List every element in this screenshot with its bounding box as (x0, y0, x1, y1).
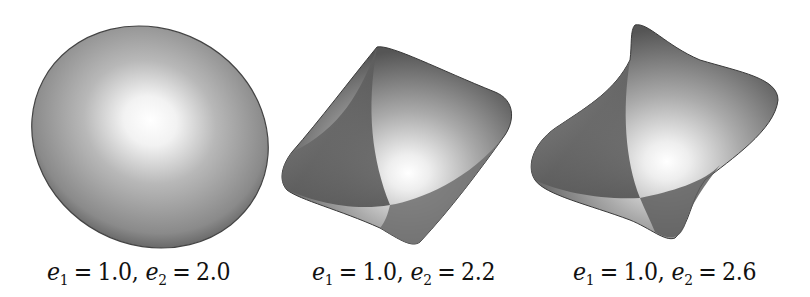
shapes-canvas (0, 0, 810, 250)
equals-sign: = (693, 258, 722, 286)
comma: , (132, 258, 139, 286)
e1-symbol: e (312, 258, 325, 286)
equals-sign: = (68, 258, 97, 286)
e1-value: 1.0 (363, 258, 397, 286)
e2-value: 2.2 (461, 258, 495, 286)
e1-subscript: 1 (60, 271, 69, 289)
caption-panel-3: e1=1.0, e2=2.6 (573, 258, 756, 288)
figure: e1=1.0, e2=2.0 e1=1.0, e2=2.2 e1=1.0, e2… (0, 0, 810, 297)
equals-sign: = (594, 258, 623, 286)
e2-subscript: 2 (423, 271, 432, 289)
caption-panel-1: e1=1.0, e2=2.0 (47, 258, 230, 288)
equals-sign: = (432, 258, 461, 286)
comma: , (397, 258, 404, 286)
superquadric-3-left-flap (531, 60, 640, 198)
equals-sign: = (333, 258, 362, 286)
e1-subscript: 1 (325, 271, 334, 289)
e2-symbol: e (671, 258, 684, 286)
equals-sign: = (167, 258, 196, 286)
e1-value: 1.0 (98, 258, 132, 286)
panel-2-superquadric (282, 47, 512, 244)
e2-subscript: 2 (684, 271, 693, 289)
e2-symbol: e (145, 258, 158, 286)
panel-3-superquadric (531, 25, 778, 239)
e1-symbol: e (47, 258, 60, 286)
caption-panel-2: e1=1.0, e2=2.2 (312, 258, 495, 288)
e1-subscript: 1 (586, 271, 595, 289)
e1-value: 1.0 (624, 258, 658, 286)
e2-symbol: e (410, 258, 423, 286)
ellipsoid-shape (0, 0, 308, 250)
e2-value: 2.6 (722, 258, 756, 286)
e1-symbol: e (573, 258, 586, 286)
panel-1-ellipsoid (0, 0, 308, 250)
e2-subscript: 2 (158, 271, 167, 289)
comma: , (658, 258, 665, 286)
e2-value: 2.0 (196, 258, 230, 286)
